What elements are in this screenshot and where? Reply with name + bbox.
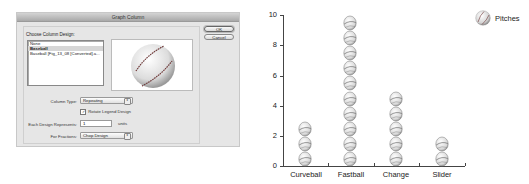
y-tick-label: 2	[267, 131, 277, 140]
column-type-value: Repeating	[83, 98, 103, 103]
each-design-represents-label: Each Design Represents:	[28, 122, 77, 127]
x-label-change: Change	[373, 170, 419, 179]
y-tick	[280, 45, 284, 46]
baseball-icon	[343, 15, 357, 30]
baseball-icon	[343, 30, 357, 45]
y-tick-label: 0	[267, 161, 277, 170]
baseball-icon	[389, 151, 403, 166]
legend-label: Pitches	[495, 14, 520, 23]
baseball-icon	[343, 136, 357, 151]
x-label-slider: Slider	[419, 170, 465, 179]
y-tick	[280, 106, 284, 107]
baseball-icon	[343, 60, 357, 75]
for-fractions-label: For Fractions:	[50, 134, 77, 139]
baseball-icon	[343, 106, 357, 121]
rotate-legend-design-row[interactable]: ✓ Rotate Legend Design	[80, 109, 131, 115]
rotate-legend-label: Rotate Legend Design	[88, 109, 131, 114]
baseball-icon	[435, 136, 449, 151]
for-fractions-select[interactable]: Chop Design ⇕	[80, 132, 133, 139]
y-tick	[280, 166, 284, 167]
ok-button[interactable]: OK	[204, 26, 234, 32]
baseball-icon	[389, 91, 403, 106]
column-design-listbox[interactable]: None Baseball Baseball [Fig_13_08 [Conve…	[27, 40, 104, 86]
select-arrows-icon: ⇕	[124, 98, 131, 105]
baseball-icon	[298, 136, 312, 151]
baseball-icon	[298, 121, 312, 136]
baseball-icon	[389, 106, 403, 121]
baseball-icon	[298, 151, 312, 166]
each-design-represents-input[interactable]: 1	[80, 120, 112, 127]
y-tick-label: 4	[267, 101, 277, 110]
legend-baseball-icon	[475, 10, 491, 30]
baseball-icon	[343, 121, 357, 136]
baseball-icon	[389, 121, 403, 136]
y-tick	[280, 15, 284, 16]
y-tick	[280, 76, 284, 77]
pictograph-column-chart: 0 2 4 6 8 10 Curveball Fastball Change S…	[265, 0, 529, 184]
baseball-icon	[343, 75, 357, 90]
x-tick	[465, 163, 466, 166]
x-tick	[419, 163, 420, 166]
y-axis	[283, 15, 284, 166]
cancel-button[interactable]: Cancel	[204, 34, 234, 40]
y-tick-label: 6	[267, 71, 277, 80]
y-tick-label: 8	[267, 40, 277, 49]
x-tick	[328, 163, 329, 166]
for-fractions-value: Chop Design	[83, 133, 108, 138]
y-tick	[280, 136, 284, 137]
baseball-icon	[435, 151, 449, 166]
baseball-icon	[343, 151, 357, 166]
baseball-icon	[128, 41, 178, 91]
design-option-baseball-converted[interactable]: Baseball [Fig_13_08 [Converted].a...	[28, 51, 103, 56]
baseball-icon	[389, 136, 403, 151]
baseball-icon	[343, 91, 357, 106]
baseball-icon	[343, 45, 357, 60]
rotate-legend-checkbox[interactable]: ✓	[80, 109, 86, 115]
x-tick	[374, 163, 375, 166]
select-arrows-icon: ⇕	[124, 133, 131, 140]
design-preview	[111, 39, 193, 91]
units-label: units	[118, 121, 127, 126]
dialog-content: Choose Column Design: None Baseball Base…	[16, 12, 240, 147]
column-type-label: Column Type:	[51, 99, 77, 104]
x-label-fastball: Fastball	[328, 170, 374, 179]
y-tick-label: 10	[267, 10, 277, 19]
column-type-select[interactable]: Repeating ⇕	[80, 97, 133, 104]
x-label-curveball: Curveball	[283, 170, 329, 179]
choose-column-design-label: Choose Column Design:	[26, 32, 75, 37]
